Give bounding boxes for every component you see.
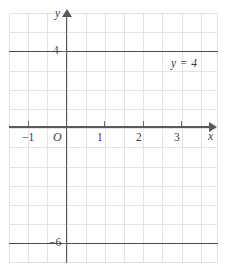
x-tick-label-minus-1: −1 [22, 132, 34, 144]
x-tick-label-2: 2 [136, 132, 142, 144]
x-tick-minus-1 [28, 121, 29, 126]
x-tick-1 [104, 121, 105, 126]
coordinate-plot-figure: −1 1 2 3 4 −6 O x y y = 4 [0, 0, 229, 272]
equation-annotation: y = 4 [171, 58, 197, 70]
line-y-equals-4 [9, 51, 218, 53]
y-axis-arrow-icon [62, 9, 72, 17]
y-axis [66, 16, 68, 263]
origin-label: O [53, 131, 62, 143]
y-tick-minus-6 [62, 243, 67, 244]
line-y-equals-minus-6 [9, 243, 218, 245]
x-tick-label-3: 3 [174, 132, 180, 144]
x-tick-label-1: 1 [97, 132, 103, 144]
y-tick-label-4: 4 [53, 45, 59, 57]
y-tick-label-minus-6: −6 [49, 237, 61, 249]
y-tick-4 [62, 51, 67, 52]
y-axis-label: y [55, 8, 60, 20]
x-tick-2 [143, 121, 144, 126]
x-axis-label: x [208, 131, 213, 143]
x-axis [9, 126, 212, 128]
x-tick-3 [181, 121, 182, 126]
